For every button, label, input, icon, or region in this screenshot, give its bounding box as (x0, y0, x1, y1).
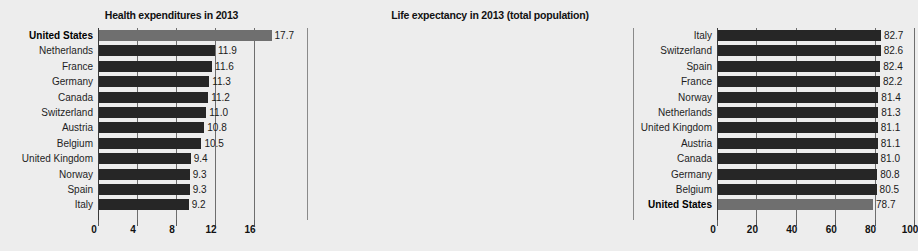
x-axis: 0481216 (98, 220, 254, 240)
bar-row: Netherlands11.9 (98, 43, 254, 58)
bar-value-label: 81.3 (878, 105, 900, 120)
bar-row: Norway81.4 (717, 90, 914, 105)
bar (99, 107, 206, 118)
bar (99, 199, 189, 210)
gridline-16 (254, 28, 255, 220)
bar-value-label: 11.2 (208, 90, 230, 105)
x-axis-tick-label: 20 (747, 224, 758, 235)
category-label: United Kingdom (22, 151, 98, 166)
bar-row: France11.6 (98, 59, 254, 74)
bar-value-label: 82.2 (880, 74, 902, 89)
bar-value-label: 78.7 (873, 197, 895, 212)
bar-row: Belgium80.5 (717, 182, 914, 197)
panel-edge-rule-1 (633, 28, 634, 220)
bar-row: Spain9.3 (98, 182, 254, 197)
category-label: Germany (52, 74, 98, 89)
bar-row: Belgium10.5 (98, 136, 254, 151)
bar-value-label: 9.2 (189, 197, 206, 212)
category-label: United States (648, 197, 717, 212)
x-axis: 020406080100 (717, 220, 914, 240)
x-axis-tick-mark (176, 220, 177, 226)
bar (99, 61, 212, 72)
bar (718, 122, 878, 133)
bar-value-label: 11.0 (206, 105, 228, 120)
bar-row: Austria81.1 (717, 136, 914, 151)
bar (718, 138, 878, 149)
x-axis-tick-label: 60 (826, 224, 837, 235)
category-label: Norway (59, 167, 98, 182)
bar (718, 199, 873, 210)
plot-area-life-expectancy: Italy82.7Switzerland82.6Spain82.4France8… (717, 28, 914, 214)
bar-value-label: 81.0 (878, 151, 900, 166)
category-label: France (62, 59, 98, 74)
category-label: Norway (678, 90, 717, 105)
bar-value-label: 17.7 (272, 28, 294, 43)
category-label: Switzerland (660, 43, 717, 58)
bar (99, 169, 190, 180)
bar-row: Germany80.8 (717, 167, 914, 182)
bar-row: Germany11.3 (98, 74, 254, 89)
bar-value-label: 81.1 (878, 120, 900, 135)
category-label: Canada (677, 151, 717, 166)
bar-value-label: 11.6 (212, 59, 234, 74)
category-label: Switzerland (41, 105, 98, 120)
bar (99, 30, 272, 41)
x-axis-tick-mark (98, 220, 99, 226)
bar (99, 45, 215, 56)
bar-row: Canada11.2 (98, 90, 254, 105)
bar (718, 153, 878, 164)
bar (718, 107, 878, 118)
bar-row: Austria10.8 (98, 120, 254, 135)
bar-row: Spain82.4 (717, 59, 914, 74)
bar-row: United States78.7 (717, 197, 914, 212)
bar (718, 30, 881, 41)
bar-row: Netherlands81.3 (717, 105, 914, 120)
bar (718, 184, 877, 195)
category-label: Belgium (676, 182, 717, 197)
bar-value-label: 11.9 (215, 43, 237, 58)
bar-value-label: 9.3 (190, 167, 207, 182)
chart-title-life-expectancy: Life expectancy in 2013 (total populatio… (325, 9, 649, 21)
category-label: Germany (671, 167, 717, 182)
bar (718, 76, 880, 87)
bar-row: Italy9.2 (98, 197, 254, 212)
chart-title-health-expenditures: Health expenditures in 2013 (0, 9, 325, 21)
bar-value-label: 9.4 (191, 151, 208, 166)
x-axis-tick-label: 12 (205, 224, 216, 235)
x-axis-tick-mark (137, 220, 138, 226)
bar-value-label: 81.4 (878, 90, 900, 105)
bar-value-label: 82.6 (881, 43, 903, 58)
category-label: Belgium (57, 136, 98, 151)
bar (718, 169, 877, 180)
x-axis-tick-mark (717, 220, 718, 226)
chart-panel-health-expenditures: Health expenditures in 2013 United State… (0, 0, 325, 251)
category-label: United Kingdom (641, 120, 717, 135)
bar-value-label: 10.8 (204, 120, 226, 135)
bar-value-label: 82.7 (881, 28, 903, 43)
bar-value-label: 80.5 (877, 182, 899, 197)
bar-value-label: 80.8 (877, 167, 899, 182)
gridline-100 (914, 28, 915, 220)
category-label: Austria (681, 136, 717, 151)
category-label: Spain (686, 59, 717, 74)
bar-row: Switzerland11.0 (98, 105, 254, 120)
bar-row: Italy82.7 (717, 28, 914, 43)
x-axis-tick-label: 40 (786, 224, 797, 235)
category-label: Spain (67, 182, 98, 197)
bar-value-label: 10.5 (201, 136, 223, 151)
x-axis-tick-label: 0 (710, 224, 716, 235)
category-label: United States (29, 28, 98, 43)
category-label: Italy (75, 197, 98, 212)
bar-value-label: 82.4 (880, 59, 902, 74)
x-axis-tick-label: 16 (244, 224, 255, 235)
category-label: France (681, 74, 717, 89)
bar (718, 45, 881, 56)
bar (99, 184, 190, 195)
category-label: Austria (62, 120, 98, 135)
x-axis-tick-label: 8 (169, 224, 175, 235)
bar (99, 122, 204, 133)
bar (99, 153, 191, 164)
bar-row: United States17.7 (98, 28, 254, 43)
x-axis-tick-label: 100 (902, 224, 918, 235)
